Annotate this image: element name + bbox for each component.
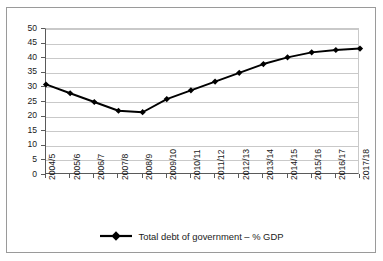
y-axis-label: 40 bbox=[7, 53, 37, 62]
data-point-marker bbox=[67, 90, 73, 96]
x-axis-label: 2015/16 bbox=[314, 149, 323, 180]
y-axis-label: 45 bbox=[7, 38, 37, 47]
x-axis-tick bbox=[190, 174, 191, 178]
x-axis-tick bbox=[166, 174, 167, 178]
x-axis-tick bbox=[69, 174, 70, 178]
x-axis-label: 2016/17 bbox=[338, 149, 347, 180]
y-axis-tick bbox=[41, 28, 45, 29]
y-axis-tick bbox=[41, 86, 45, 87]
x-axis-tick bbox=[117, 174, 118, 178]
x-axis-label: 2009/10 bbox=[169, 149, 178, 180]
x-axis-label: 2004/5 bbox=[48, 154, 57, 180]
y-axis-tick bbox=[41, 130, 45, 131]
y-axis-tick bbox=[41, 116, 45, 117]
x-axis-tick bbox=[238, 174, 239, 178]
data-point-marker bbox=[309, 49, 315, 55]
y-axis-tick bbox=[41, 57, 45, 58]
data-point-marker bbox=[236, 70, 242, 76]
y-axis-tick bbox=[41, 101, 45, 102]
plot-area bbox=[45, 28, 359, 174]
x-axis-tick bbox=[311, 174, 312, 178]
data-point-marker bbox=[91, 99, 97, 105]
x-axis-tick bbox=[262, 174, 263, 178]
x-axis-label: 2013/14 bbox=[266, 149, 275, 180]
x-axis-label: 2007/8 bbox=[121, 154, 130, 180]
data-point-marker bbox=[115, 108, 121, 114]
y-axis-label: 50 bbox=[7, 24, 37, 33]
legend-label: Total debt of government – % GDP bbox=[139, 231, 284, 242]
y-axis-label: 5 bbox=[7, 155, 37, 164]
x-axis-tick bbox=[335, 174, 336, 178]
legend-diamond-line-marker-icon bbox=[99, 230, 133, 242]
y-axis-label: 20 bbox=[7, 111, 37, 120]
y-axis-label: 35 bbox=[7, 67, 37, 76]
y-axis-tick bbox=[41, 159, 45, 160]
y-axis-tick bbox=[41, 43, 45, 44]
x-axis-label: 2017/18 bbox=[362, 149, 371, 180]
data-point-marker bbox=[357, 45, 363, 51]
x-axis-label: 2014/15 bbox=[290, 149, 299, 180]
x-axis-label: 2012/13 bbox=[242, 149, 251, 180]
data-point-marker bbox=[333, 47, 339, 53]
data-point-marker bbox=[188, 87, 194, 93]
data-point-marker bbox=[212, 78, 218, 84]
y-axis-tick bbox=[41, 72, 45, 73]
data-point-marker bbox=[260, 61, 266, 67]
x-axis-tick bbox=[359, 174, 360, 178]
data-point-marker bbox=[284, 54, 290, 60]
chart-frame: 05101520253035404550 2004/52005/62006/72… bbox=[6, 7, 376, 253]
x-axis-tick bbox=[45, 174, 46, 178]
x-axis-label: 2005/6 bbox=[73, 154, 82, 180]
x-axis-tick bbox=[287, 174, 288, 178]
chart-legend: Total debt of government – % GDP bbox=[7, 230, 375, 242]
x-axis-tick bbox=[93, 174, 94, 178]
y-axis-label: 0 bbox=[7, 170, 37, 179]
x-axis-label: 2008/9 bbox=[145, 154, 154, 180]
x-axis-label: 2006/7 bbox=[97, 154, 106, 180]
y-axis-label: 30 bbox=[7, 82, 37, 91]
y-axis-label: 10 bbox=[7, 140, 37, 149]
x-axis-label: 2010/11 bbox=[193, 150, 202, 180]
y-axis-tick bbox=[41, 145, 45, 146]
x-axis-label: 2011/12 bbox=[217, 150, 226, 180]
x-axis-tick bbox=[214, 174, 215, 178]
y-axis-label: 25 bbox=[7, 97, 37, 106]
y-axis-label: 15 bbox=[7, 126, 37, 135]
x-axis-tick bbox=[142, 174, 143, 178]
